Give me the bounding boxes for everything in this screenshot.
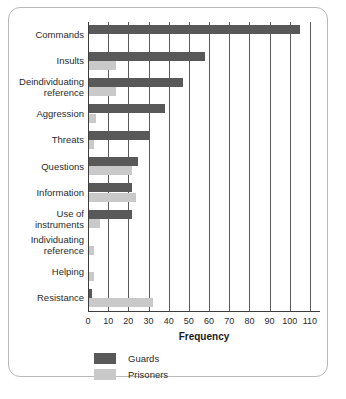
bar-group bbox=[88, 75, 320, 101]
bar-prisoners-8 bbox=[88, 246, 94, 255]
legend-swatch-prisoners bbox=[94, 369, 116, 380]
bar-prisoners-1 bbox=[88, 61, 116, 70]
bar-group bbox=[88, 127, 320, 153]
bar-group bbox=[88, 101, 320, 127]
bar-group bbox=[88, 48, 320, 74]
chart-legend: GuardsPrisoners bbox=[94, 350, 168, 382]
bar-group bbox=[88, 233, 320, 259]
bar-group bbox=[88, 259, 320, 285]
legend-item-prisoners: Prisoners bbox=[94, 366, 168, 382]
category-label-10: Resistance bbox=[0, 292, 84, 303]
bar-guards-5 bbox=[88, 157, 138, 166]
bar-guards-0 bbox=[88, 25, 300, 34]
category-label-7: Use ofinstruments bbox=[0, 208, 84, 230]
bar-guards-2 bbox=[88, 78, 183, 87]
plot-area bbox=[88, 22, 320, 312]
bar-prisoners-5 bbox=[88, 166, 132, 175]
category-label-1: Insults bbox=[0, 55, 84, 66]
legend-label-guards: Guards bbox=[128, 353, 159, 364]
category-label-5: Questions bbox=[0, 161, 84, 172]
bar-guards-7 bbox=[88, 210, 132, 219]
category-label-2: Deindividuatingreference bbox=[0, 76, 84, 98]
bar-guards-1 bbox=[88, 52, 205, 61]
bar-prisoners-4 bbox=[88, 140, 94, 149]
category-label-0: Commands bbox=[0, 29, 84, 40]
x-axis-title: Frequency bbox=[88, 331, 320, 342]
legend-label-prisoners: Prisoners bbox=[128, 369, 168, 380]
bar-guards-4 bbox=[88, 131, 149, 140]
bar-prisoners-6 bbox=[88, 193, 136, 202]
bar-prisoners-7 bbox=[88, 219, 100, 228]
category-label-4: Threats bbox=[0, 134, 84, 145]
legend-item-guards: Guards bbox=[94, 350, 168, 366]
bar-chart: CommandsInsultsDeindividuatingreferenceA… bbox=[0, 0, 346, 399]
x-tick-110: 110 bbox=[298, 316, 322, 326]
category-label-3: Aggression bbox=[0, 108, 84, 119]
bar-guards-3 bbox=[88, 104, 165, 113]
category-label-6: Information bbox=[0, 187, 84, 198]
bar-group bbox=[88, 207, 320, 233]
category-label-8: Individuatingreference bbox=[0, 234, 84, 256]
category-label-9: Helping bbox=[0, 266, 84, 277]
bar-guards-6 bbox=[88, 183, 132, 192]
bar-group bbox=[88, 180, 320, 206]
bar-group bbox=[88, 286, 320, 312]
bar-prisoners-9 bbox=[88, 272, 94, 281]
bar-prisoners-2 bbox=[88, 87, 116, 96]
bar-guards-10 bbox=[88, 289, 92, 298]
legend-swatch-guards bbox=[94, 353, 116, 364]
bar-prisoners-10 bbox=[88, 298, 153, 307]
bar-prisoners-3 bbox=[88, 114, 96, 123]
bar-group bbox=[88, 22, 320, 48]
bar-group bbox=[88, 154, 320, 180]
